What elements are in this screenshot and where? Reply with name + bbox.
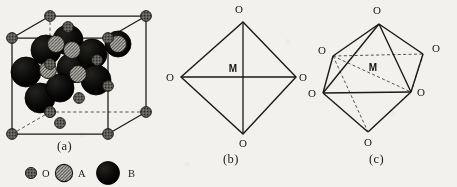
vertex-label-bottom: O bbox=[364, 136, 372, 148]
rhombus-outline bbox=[181, 22, 296, 134]
legend-swatch-b bbox=[97, 162, 120, 185]
panel-a-unit-cell: (a) O A B bbox=[0, 0, 163, 187]
octahedron-planar-drawing: O O O O M bbox=[163, 0, 303, 150]
figure-root: (a) O A B O O O O M (b) bbox=[0, 0, 457, 187]
vertex-label-upper-left: O bbox=[318, 44, 326, 56]
unit-cell-drawing bbox=[0, 0, 163, 150]
legend-label-b: B bbox=[128, 168, 135, 179]
vertex-label-lower-right: O bbox=[417, 86, 425, 98]
center-label-m: M bbox=[369, 62, 377, 73]
vertex-label-lower-left: O bbox=[308, 87, 316, 99]
vertex-label-apex: O bbox=[373, 4, 381, 16]
panel-b-caption: (b) bbox=[223, 152, 239, 167]
legend-label-a: A bbox=[78, 168, 86, 179]
vertex-label-left: O bbox=[166, 71, 174, 83]
panel-b-octahedron-planar: O O O O M (b) bbox=[163, 0, 303, 187]
panel-c-caption: (c) bbox=[369, 152, 384, 167]
octahedron-perspective-drawing: O O O O O O M bbox=[303, 0, 457, 150]
legend-swatch-o bbox=[25, 167, 36, 178]
center-label-m: M bbox=[229, 63, 237, 74]
vertex-label-top: O bbox=[235, 3, 243, 15]
panel-a-caption: (a) bbox=[57, 139, 72, 154]
vertex-label-upper-right: O bbox=[432, 42, 440, 54]
octahedron-visible-edges bbox=[323, 24, 423, 132]
legend-label-o: O bbox=[42, 168, 50, 179]
legend-swatch-a bbox=[55, 164, 72, 181]
panel-c-octahedron-perspective: O O O O O O M (c) bbox=[303, 0, 457, 187]
vertex-label-bottom: O bbox=[239, 137, 247, 149]
legend: O A B bbox=[22, 160, 172, 186]
